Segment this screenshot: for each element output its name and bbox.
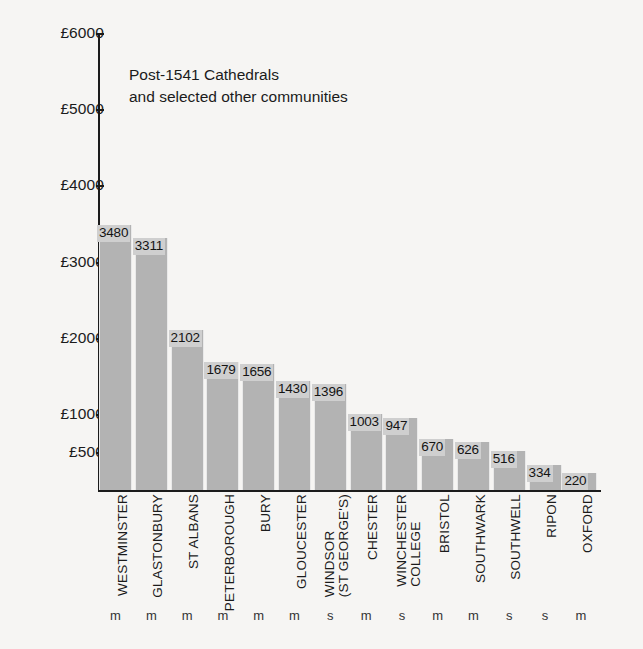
category-type-marker: m [135,608,168,623]
bar [171,330,204,490]
x-axis-label-line: ST ALBANS [187,494,201,569]
bar-value-label: 2102 [169,330,202,347]
y-axis-tick-label: £1000 [18,405,104,423]
category-type-marker: m [564,608,597,623]
bar [242,364,275,490]
bar-value-label: 1396 [312,384,345,401]
category-type-marker: m [457,608,490,623]
bar-value-label: 516 [491,451,517,468]
x-axis-label-line: WESTMINSTER [116,494,130,596]
x-axis-label-slot: WINCHESTERCOLLEGE [385,494,418,599]
category-type-marker: m [421,608,454,623]
bar-group: 1656 [242,33,275,490]
bar [135,238,168,490]
category-type-marker: s [529,608,562,623]
x-axis-label: RIPON [545,494,559,538]
x-axis-label-line: OXFORD [581,494,595,553]
x-axis-label: CHESTER [366,494,380,560]
bar-value-label: 3311 [133,238,165,255]
x-axis-label-slot: CHESTER [350,494,383,599]
bar-group: 2102 [171,33,204,490]
x-axis-label-line: BRISTOL [438,494,452,553]
x-axis-label-line: BURY [259,494,273,532]
y-axis-tick-label: £500 [18,443,104,461]
x-axis-label: WINDSOR(ST GEORGE'S) [323,494,351,597]
bar-group: 1396 [314,33,347,490]
bar-chart: £6000£5000£4000£3000£2000£1000£500 Post-… [0,0,643,649]
bar-value-label: 670 [419,439,445,456]
bar-group: 1679 [206,33,239,490]
category-type-marker: m [278,608,311,623]
x-axis-label: WESTMINSTER [116,494,130,596]
bar-value-label: 334 [527,465,553,482]
x-axis-label-slot: BURY [242,494,275,599]
y-axis-tick-label: £4000 [18,176,104,194]
bar-value-label: 1679 [204,362,237,379]
x-axis-labels: WESTMINSTERGLASTONBURYST ALBANSPETERBORO… [99,494,601,599]
bar-value-label: 3480 [97,225,130,242]
x-axis-label-line: SOUTHWELL [509,494,523,580]
x-axis-label-slot: GLASTONBURY [135,494,168,599]
x-axis-label-line: SOUTHWARK [474,494,488,583]
x-axis-label: PETERBOROUGH [223,494,237,611]
x-axis-label-slot: SOUTHWELL [493,494,526,599]
category-type-marker: m [242,608,275,623]
x-axis-label-slot: SOUTHWARK [457,494,490,599]
bar [206,362,239,490]
x-axis-label-line: CHESTER [366,494,380,560]
category-type-marker: m [206,608,239,623]
x-axis-label: ST ALBANS [187,494,201,569]
bar-group: 626 [457,33,490,490]
bar-value-label: 1003 [348,414,381,431]
bar-value-label: 1656 [240,364,273,381]
x-axis-label-line: WINCHESTER [395,494,409,587]
x-axis-label: SOUTHWARK [474,494,488,583]
bar-group: 947 [385,33,418,490]
bar-group: 1003 [350,33,383,490]
x-axis-label: WINCHESTERCOLLEGE [395,494,423,587]
x-axis-label-slot: OXFORD [564,494,597,599]
y-axis-tick-label: £5000 [18,100,104,118]
x-axis-label: SOUTHWELL [509,494,523,580]
bar-group: 3311 [135,33,168,490]
bar-value-label: 220 [562,473,588,490]
y-axis-tick-label: £2000 [18,329,104,347]
x-axis-label-slot: WESTMINSTER [99,494,132,599]
bar-group: 3480 [99,33,132,490]
y-axis-tick-label: £6000 [18,24,104,42]
x-axis-label-slot: RIPON [529,494,562,599]
x-axis-label-line: GLOUCESTER [295,494,309,589]
category-type-marker: m [99,608,132,623]
x-axis-label-slot: GLOUCESTER [278,494,311,599]
bar-group: 1430 [278,33,311,490]
bar-value-label: 947 [383,418,409,435]
x-axis-label-slot: ST ALBANS [171,494,204,599]
category-type-marker: m [350,608,383,623]
x-axis-label-slot: WINDSOR(ST GEORGE'S) [314,494,347,599]
x-axis-label-slot: PETERBOROUGH [206,494,239,599]
bar-group: 670 [421,33,454,490]
category-type-marker: s [493,608,526,623]
x-axis-label-line: PETERBOROUGH [223,494,237,611]
y-axis-tick-label: £3000 [18,253,104,271]
x-axis-label: OXFORD [581,494,595,553]
x-axis-label: GLOUCESTER [295,494,309,589]
bar-group: 220 [564,33,597,490]
category-type-marker: s [385,608,418,623]
x-axis-label-line: GLASTONBURY [151,494,165,598]
bar-value-label: 626 [455,442,481,459]
category-type-marker: s [314,608,347,623]
bar-group: 334 [529,33,562,490]
plot-area: 3480331121021679165614301396100394767062… [99,33,601,490]
x-axis-label-line: RIPON [545,494,559,538]
bar-group: 516 [493,33,526,490]
x-axis-label: GLASTONBURY [151,494,165,598]
x-axis-label: BRISTOL [438,494,452,553]
marker-row: mmmmmmsmsmmssm [99,608,601,628]
x-axis-line [98,490,601,492]
x-axis-label-slot: BRISTOL [421,494,454,599]
bar [99,225,132,490]
x-axis-label: BURY [259,494,273,532]
category-type-marker: m [171,608,204,623]
bar-value-label: 1430 [276,381,309,398]
